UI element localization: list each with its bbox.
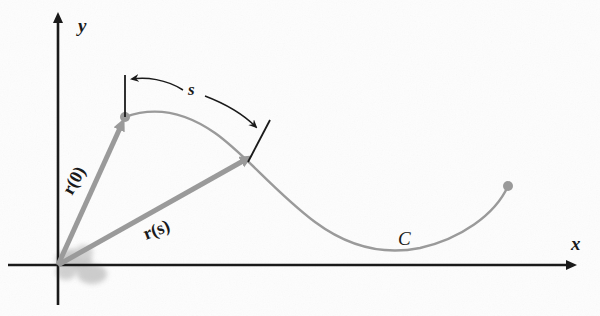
y-axis-label: y <box>76 15 87 36</box>
arc-length-label: s <box>187 80 195 99</box>
curve-end-dot <box>503 181 513 191</box>
figure-canvas: y x C r(0) r(s) s <box>0 0 600 316</box>
x-axis-label: x <box>570 233 581 254</box>
vector-calculus-diagram: y x C r(0) r(s) s <box>0 0 600 316</box>
curve-c-label: C <box>398 228 411 249</box>
